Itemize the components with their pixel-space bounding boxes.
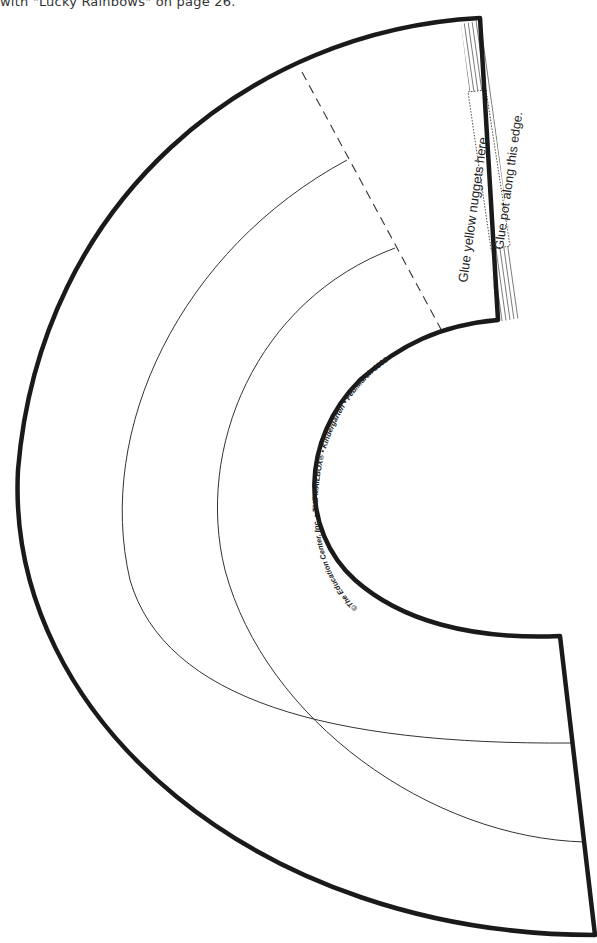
rainbow-template: Glue yellow nuggets here. Glue pot along… <box>0 0 597 943</box>
dashed-cut-line <box>302 72 443 333</box>
rainbow-band-line-2 <box>217 248 585 842</box>
